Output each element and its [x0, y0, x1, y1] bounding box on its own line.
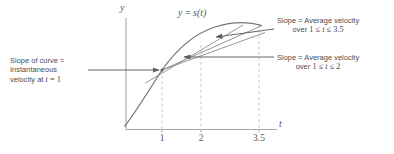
- arrow-right-top-annotation: [216, 29, 274, 37]
- tangent-annotation-line2: Instantaneous: [10, 65, 64, 74]
- tangent-annotation: Slope of curve = Instantaneous velocity …: [10, 56, 64, 84]
- curve-y-equals-s-of-t: [125, 23, 263, 127]
- secant-35-upper-bound: 3.5: [333, 25, 343, 34]
- curve-eq-rhs: s(t): [193, 7, 206, 18]
- secant-2-upper-bound: 2: [336, 62, 340, 71]
- tangent-annotation-equals: =: [48, 75, 57, 84]
- secant-35-annotation-prefix: over: [293, 25, 310, 34]
- xtick-label-1: 1: [157, 133, 167, 143]
- tangent-annotation-line3-prefix: velocity at: [10, 75, 46, 84]
- secant-2-annotation-line1: Slope = Average velocity: [277, 53, 359, 62]
- point-of-tangency-marker: [161, 69, 164, 72]
- tangent-annotation-value: 1: [57, 75, 61, 84]
- secant-2-annotation-line2: over 1 ≤ t ≤ 2: [277, 62, 359, 71]
- xtick-label-35: 3.5: [250, 133, 268, 143]
- x-axis-label: t: [279, 118, 282, 129]
- curve-eq-lhs: y: [178, 7, 182, 18]
- secant-35-annotation-line1: Slope = Average velocity: [277, 16, 359, 25]
- secant-35-le-1: ≤: [313, 25, 322, 34]
- secant-35-annotation: Slope = Average velocity over 1 ≤ t ≤ 3.…: [277, 16, 359, 35]
- tangent-annotation-line1: Slope of curve =: [10, 56, 64, 65]
- secant-2-le-1: ≤: [317, 62, 326, 71]
- curve-eq-equals: =: [185, 7, 191, 18]
- secant-35-annotation-line2: over 1 ≤ t ≤ 3.5: [277, 25, 359, 34]
- secant-35-le-2: ≤: [325, 25, 334, 34]
- y-axis-label: y: [120, 2, 124, 13]
- secant-2-annotation: Slope = Average velocity over 1 ≤ t ≤ 2: [277, 53, 359, 72]
- curve-equation-label: y = s(t): [178, 7, 206, 18]
- tangent-line-at-t1: [146, 25, 244, 83]
- tangent-annotation-line3: velocity at t = 1: [10, 75, 64, 84]
- xtick-label-2: 2: [196, 133, 206, 143]
- secant-2-annotation-prefix: over: [296, 62, 313, 71]
- secant-line-1-to-3-5: [162, 26, 262, 71]
- calculus-slope-figure: y t 1 2 3.5 y = s(t) Slope of curve = In…: [0, 0, 394, 154]
